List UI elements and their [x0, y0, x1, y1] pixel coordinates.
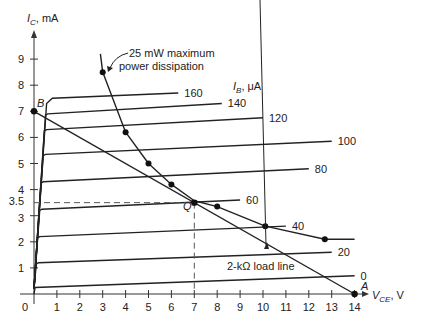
ib-curves: 020406080100120140160: [34, 87, 367, 294]
ib-curve-label-80: 80: [315, 163, 327, 175]
x-tick-label: 5: [145, 301, 151, 313]
y-tick-label: 7: [18, 105, 24, 117]
x-tick-label: 10: [257, 301, 269, 313]
power-curve-marker: [168, 181, 174, 187]
ib-curve-label-120: 120: [269, 112, 287, 124]
y-axis-arrow-icon: [31, 30, 37, 38]
x-tick-label: 11: [280, 301, 291, 313]
x-tick-label: 13: [326, 301, 338, 313]
x-tick-label: 4: [123, 301, 129, 313]
y-tick-label: 1: [18, 262, 24, 274]
transistor-characteristic-chart: 012345678910111213141233.5456789 0204060…: [0, 0, 431, 325]
y-tick-label: 9: [18, 53, 24, 65]
ib-family-label: IB, μA: [233, 80, 262, 95]
y-tick-label: 6: [18, 131, 24, 143]
point-a-label: A: [360, 280, 368, 292]
load-line-annotation-arrow: [260, 0, 266, 245]
ib-curve-60: [34, 200, 240, 289]
y-tick-label: 8: [18, 79, 24, 91]
y-tick-label: 5: [18, 158, 24, 170]
ib-curve-label-20: 20: [338, 246, 350, 258]
q-point-guides: [34, 199, 198, 294]
y-axis-label: IC, mA: [27, 12, 59, 27]
load-line-label: 2-kΩ load line: [227, 260, 295, 272]
x-tick-label: 0: [22, 301, 28, 313]
ib-curve-160: [34, 93, 178, 289]
power-dissipation-curve: [100, 54, 355, 242]
ib-curve-label-140: 140: [228, 97, 246, 109]
y-tick-label: 2: [18, 236, 24, 248]
point-b-label: B: [37, 97, 44, 109]
ib-curve-label-40: 40: [292, 220, 304, 232]
ib-curve-label-160: 160: [184, 87, 202, 99]
y-tick-label: 3: [18, 212, 24, 224]
ib-curve-label-60: 60: [246, 194, 258, 206]
power-curve-marker: [100, 69, 106, 75]
x-tick-label: 3: [100, 301, 106, 313]
y-tick-label: 4: [18, 184, 24, 196]
power-curve-marker: [146, 161, 152, 167]
power-curve-marker: [214, 204, 220, 210]
power-label-line2: power dissipation: [119, 60, 204, 72]
power-label-line1: 25 mW maximum: [129, 47, 215, 59]
x-tick-label: 12: [303, 301, 315, 313]
power-curve-marker: [322, 236, 328, 242]
ib-curve-label-100: 100: [338, 135, 356, 147]
x-tick-label: 2: [77, 301, 83, 313]
x-tick-label: 8: [214, 301, 220, 313]
power-curve-marker: [123, 129, 129, 135]
x-axis-label: VCE, V: [372, 289, 405, 304]
x-tick-label: 1: [54, 301, 60, 313]
x-tick-label: 6: [168, 301, 174, 313]
y-tick-label: 3.5: [9, 195, 24, 207]
x-tick-label: 14: [348, 301, 360, 313]
x-tick-label: 9: [237, 301, 243, 313]
point-b-marker: [31, 108, 37, 114]
point-a-marker: [351, 291, 357, 297]
q-point-marker: [191, 199, 197, 205]
x-tick-label: 7: [191, 301, 197, 313]
point-q-label: Q: [183, 200, 192, 212]
